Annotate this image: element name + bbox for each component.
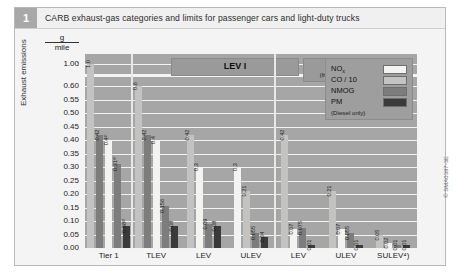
y-tick-label: 0.50 bbox=[63, 109, 79, 117]
bar-co: 1.0 bbox=[87, 64, 94, 248]
bar-nox: 0.3 bbox=[196, 167, 203, 248]
bar-nmog2: 0.31³⁾ bbox=[114, 164, 121, 248]
x-axis-label: ULEV bbox=[322, 250, 369, 262]
figure-frame: 1 CARB exhaust-gas categories and limits… bbox=[14, 7, 446, 266]
x-axis-label: SULEV⁴) bbox=[370, 250, 417, 262]
legend-swatch-co bbox=[383, 76, 407, 85]
bar-value-label: 0.08 bbox=[168, 221, 174, 232]
bar-pm: 0.04 bbox=[261, 237, 268, 248]
gridline bbox=[85, 248, 417, 249]
bar-value-label: 0.156 bbox=[159, 199, 165, 213]
bar-value-label: 0.08¹⁾ bbox=[121, 220, 127, 234]
legend-row-co: CO / 10 bbox=[331, 74, 407, 85]
bar-nmog: 0.055 bbox=[252, 233, 259, 248]
x-axis-label: LEV bbox=[275, 250, 322, 262]
y-tick-label: 0.00 bbox=[63, 244, 79, 252]
bar-value-label: 0.4²⁾ bbox=[103, 135, 109, 146]
plot-canvas: LEV I LEV II (from Model Year 2004) NOx … bbox=[85, 54, 417, 248]
bar-pm: 0.08 bbox=[214, 226, 221, 248]
bar-value-label: 0.4 bbox=[150, 136, 156, 144]
bar-value-label: 0.3 bbox=[193, 163, 199, 171]
bar-value-label: 0.09 bbox=[202, 218, 208, 229]
group-separator bbox=[274, 54, 276, 248]
legend-swatch-nmog bbox=[383, 87, 407, 96]
bar-pm: 0.01 bbox=[356, 245, 363, 248]
y-tick-label: 0.30 bbox=[63, 163, 79, 171]
y-tick-label: 0.60 bbox=[63, 82, 79, 90]
y-tick-label: 0.45 bbox=[63, 123, 79, 131]
legend-row-pm: PM bbox=[331, 96, 407, 107]
bar-value-label: 0.31³⁾ bbox=[112, 157, 118, 171]
bar-co: 0.6 bbox=[135, 86, 142, 248]
y-axis-break-marker: : bbox=[77, 60, 79, 68]
y-axis-title: Exhaust emissions bbox=[19, 10, 28, 106]
x-axis-label: Tier 1 bbox=[85, 250, 132, 262]
y-tick-label: 0.40 bbox=[63, 136, 79, 144]
bar-value-label: 0.21 bbox=[326, 186, 332, 197]
bar-value-label: 0.055 bbox=[250, 226, 256, 240]
bar-value-label: 0.07 bbox=[288, 224, 294, 235]
y-axis-unit: g mile bbox=[45, 33, 79, 52]
figure-caption-text: CARB exhaust-gas categories and limits f… bbox=[45, 8, 360, 28]
x-axis-label: ULEV bbox=[227, 250, 274, 262]
legend-label-co: CO / 10 bbox=[331, 74, 357, 85]
bar-co: 0.42 bbox=[187, 135, 194, 248]
y-tick-label: 0.05 bbox=[63, 231, 79, 239]
figure-caption-bar: 1 CARB exhaust-gas categories and limits… bbox=[15, 8, 445, 29]
legend: NOx CO / 10 NMOG PM (Dies bbox=[325, 58, 413, 120]
x-axis-label: LEV bbox=[180, 250, 227, 262]
bar-co: 0.21 bbox=[329, 191, 336, 248]
legend-row-nmog: NMOG bbox=[331, 85, 407, 96]
x-axis-label: TLEV bbox=[132, 250, 179, 262]
bar-pm: 0.08 bbox=[171, 226, 178, 248]
bar-value-label: 0.42 bbox=[184, 129, 190, 140]
bar-value-label: 0.07 bbox=[335, 224, 341, 235]
bar-value-label: 0.21 bbox=[241, 186, 247, 197]
bar-value-label: 0.02 bbox=[383, 237, 389, 248]
legend-swatch-nox bbox=[383, 65, 407, 74]
bar-value-label: 0.04 bbox=[259, 232, 265, 243]
bar-nox: 0.3 bbox=[234, 167, 241, 248]
bar-value-label: 0.3 bbox=[232, 163, 238, 171]
bar-nmog: 0.42 bbox=[96, 135, 103, 248]
bar-value-label: 0.05 bbox=[374, 229, 380, 240]
bar-pm: 0.08¹⁾ bbox=[123, 226, 130, 248]
y-unit-denominator: mile bbox=[45, 42, 79, 52]
figure-credit: © SMA0397-3E bbox=[443, 156, 449, 198]
legend-label-pm: PM bbox=[331, 96, 342, 107]
y-tick-label: 0.10 bbox=[63, 217, 79, 225]
bar-value-label: 1.0 bbox=[85, 60, 91, 68]
bar-value-label: 0.42 bbox=[94, 129, 100, 140]
bar-nox: 0.4 bbox=[153, 140, 160, 248]
bar-value-label: 0.6 bbox=[132, 82, 138, 90]
y-tick-label: 0.15 bbox=[63, 204, 79, 212]
bar-value-label: 0.075 bbox=[297, 221, 303, 235]
bar-value-label: 0.08 bbox=[211, 221, 217, 232]
bar-co: 0.21 bbox=[243, 191, 250, 248]
legend-label-nmog: NMOG bbox=[331, 85, 354, 96]
legend-footnote: (Diesel only) bbox=[331, 108, 407, 117]
legend-row-nox: NOx bbox=[331, 63, 407, 74]
y-tick-label: 0.20 bbox=[63, 190, 79, 198]
y-unit-numerator: g bbox=[60, 33, 64, 42]
section-title-lev1: LEV I bbox=[172, 59, 298, 72]
bar-pm: 0.01 bbox=[403, 245, 410, 248]
x-axis-category-labels: Tier 1TLEVLEVULEVLEVULEVSULEV⁴) bbox=[85, 250, 417, 264]
section-header-lev1: LEV I bbox=[171, 58, 299, 76]
y-axis-ticks: 1.000.600.550.500.450.400.350.300.250.20… bbox=[41, 54, 81, 248]
chart-area: Exhaust emissions g mile 1.000.600.550.5… bbox=[21, 34, 423, 260]
bar-value-label: 0.055 bbox=[344, 226, 350, 240]
bar-value-label: 0.42 bbox=[141, 129, 147, 140]
legend-swatch-pm bbox=[383, 98, 407, 107]
y-tick-label: 0.25 bbox=[63, 177, 79, 185]
bar-nmog: 0.42 bbox=[144, 135, 151, 248]
y-tick-label: 0.35 bbox=[63, 150, 79, 158]
screenshot-root: 1 CARB exhaust-gas categories and limits… bbox=[0, 0, 460, 273]
bar-value-label: 0.42 bbox=[279, 129, 285, 140]
y-tick-label: 0.55 bbox=[63, 96, 79, 104]
bar-pm: 0.01 bbox=[308, 245, 315, 248]
